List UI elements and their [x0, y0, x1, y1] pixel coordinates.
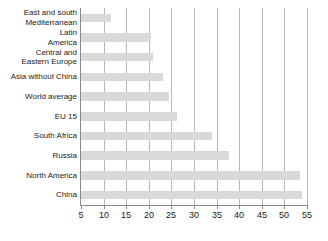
bar-row: LatinAmerica [0, 28, 328, 48]
bar-row: EU 15 [0, 107, 328, 127]
category-label: Russia [0, 146, 77, 166]
x-tick-label: 55 [302, 210, 312, 221]
category-label-line: Latin [60, 28, 77, 38]
category-label-line: Central and [36, 48, 77, 58]
x-tickmark [284, 205, 285, 209]
bar [81, 73, 163, 82]
category-label-line: Eastern Europe [21, 57, 77, 67]
category-label: Asia without China [0, 67, 77, 87]
x-axis-tickmarks [0, 205, 328, 209]
bar-row: Central andEastern Europe [0, 47, 328, 67]
bar-rows: East and southMediterraneanLatinAmericaC… [0, 8, 328, 205]
bar [81, 151, 229, 160]
category-label: EU 15 [0, 107, 77, 127]
category-label-line: EU 15 [55, 112, 77, 122]
x-tick-label: 45 [257, 210, 267, 221]
category-label-line: Russia [53, 151, 77, 161]
x-tickmark [81, 205, 82, 209]
plot-area: East and southMediterraneanLatinAmericaC… [0, 0, 328, 241]
bar-row: East and southMediterranean [0, 8, 328, 28]
bar [81, 132, 212, 141]
category-label: North America [0, 166, 77, 186]
bar-row: China [0, 185, 328, 205]
x-tick-label: 15 [121, 210, 131, 221]
x-tickmark [262, 205, 263, 209]
bar-row: World average [0, 87, 328, 107]
x-tick-label: 40 [234, 210, 244, 221]
category-label: Central andEastern Europe [0, 47, 77, 67]
x-tickmark [239, 205, 240, 209]
bar [81, 112, 177, 121]
category-label: East and southMediterranean [0, 8, 77, 28]
category-label-line: China [56, 190, 77, 200]
bar [81, 33, 151, 42]
y-axis-line [80, 8, 81, 205]
category-label-line: World average [25, 92, 77, 102]
category-label: LatinAmerica [0, 28, 77, 48]
bar [81, 92, 169, 101]
bar-row: Asia without China [0, 67, 328, 87]
category-label-line: East and south [24, 8, 77, 18]
category-label-line: Asia without China [11, 72, 77, 82]
bar-row: South Africa [0, 126, 328, 146]
bar-chart: East and southMediterraneanLatinAmericaC… [0, 0, 328, 241]
x-tickmark [171, 205, 172, 209]
x-tickmark [307, 205, 308, 209]
bar [81, 53, 153, 62]
x-tickmark [217, 205, 218, 209]
x-tickmark [149, 205, 150, 209]
x-tick-label: 5 [78, 210, 83, 221]
bar [81, 171, 300, 180]
category-label-line: America [48, 38, 77, 48]
x-tick-label: 25 [166, 210, 176, 221]
category-label-line: Mediterranean [25, 18, 77, 28]
category-label-line: North America [26, 171, 77, 181]
category-label: South Africa [0, 126, 77, 146]
x-tickmark [126, 205, 127, 209]
x-tick-label: 30 [189, 210, 199, 221]
x-tick-label: 35 [212, 210, 222, 221]
x-tick-label: 20 [144, 210, 154, 221]
x-tick-label: 50 [279, 210, 289, 221]
category-label: China [0, 185, 77, 205]
bar-row: North America [0, 166, 328, 186]
bar [81, 191, 302, 200]
x-tickmark [194, 205, 195, 209]
x-axis-tick-labels: 510152025303540455055 [0, 210, 328, 224]
category-label-line: South Africa [34, 131, 77, 141]
x-tick-label: 10 [99, 210, 109, 221]
bar [81, 14, 111, 23]
category-label: World average [0, 87, 77, 107]
x-tickmark [104, 205, 105, 209]
bar-row: Russia [0, 146, 328, 166]
